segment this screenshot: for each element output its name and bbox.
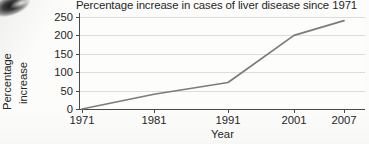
x-axis-tick-label: 2007 <box>331 114 356 126</box>
y-axis-title-line-1: Percentage <box>1 53 13 110</box>
y-axis-tick-label: 100 <box>54 66 73 78</box>
y-axis-title-line-2: increase <box>17 62 29 104</box>
data-series-line <box>80 17 365 109</box>
plot-area: 050100150200250 19711981199120012007 <box>80 17 365 109</box>
y-axis-title: Percentage increase <box>0 8 39 112</box>
y-axis-tick-label: 150 <box>54 48 73 60</box>
y-axis-tick-label: 250 <box>54 11 73 23</box>
y-axis-tick-label: 50 <box>61 85 73 97</box>
y-axis-tick-label: 200 <box>54 29 73 41</box>
chart-title: Percentage increase in cases of liver di… <box>64 0 369 11</box>
x-axis-tick-label: 1991 <box>215 114 240 126</box>
x-axis-tick-label: 1981 <box>141 114 166 126</box>
x-axis-tick-label: 1971 <box>69 114 94 126</box>
x-axis-line <box>79 109 365 110</box>
x-axis-title: Year <box>80 128 365 140</box>
x-axis-tick-label: 2001 <box>281 114 306 126</box>
